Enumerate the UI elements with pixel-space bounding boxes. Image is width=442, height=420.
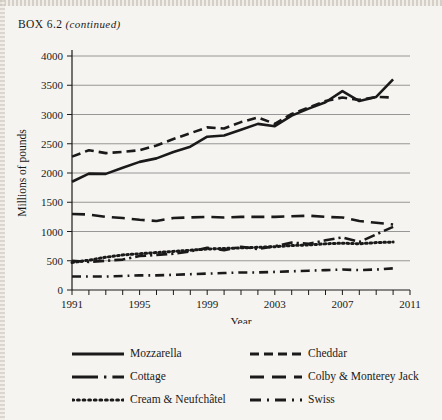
legend-item-swiss[interactable]: Swiss (250, 394, 335, 406)
legend-swatch-long-dash (250, 373, 302, 381)
series-line-colby-monterey-jack (72, 214, 393, 225)
legend-item-cottage[interactable]: Cottage (72, 371, 166, 383)
series-line-cheddar (72, 97, 393, 157)
legend-item-label: Cream & Neufchâtel (130, 394, 226, 406)
box-caption: BOX 6.2 (continued) (18, 18, 121, 30)
y-tick-label: 1500 (41, 196, 64, 208)
y-tick-label: 3000 (41, 109, 64, 121)
x-tick-label: 1995 (129, 298, 152, 310)
legend-item-label: Cottage (130, 371, 166, 383)
line-chart: 0500100015002000250030003500400019911995… (0, 34, 442, 324)
x-tick-label: 1999 (196, 298, 219, 310)
x-tick-label: 1991 (61, 298, 83, 310)
legend-item-cream-neufch-tel[interactable]: Cream & Neufchâtel (72, 394, 226, 406)
legend-item-label: Swiss (308, 394, 335, 406)
page-root: BOX 6.2 (continued) 05001000150020002500… (0, 0, 442, 420)
y-tick-label: 2500 (41, 138, 64, 150)
y-tick-label: 2000 (41, 167, 64, 179)
x-tick-label: 2007 (331, 298, 354, 310)
series-line-mozzarella (72, 79, 393, 181)
legend-item-label: Cheddar (308, 348, 347, 360)
y-axis-label: Millions of pounds (16, 129, 29, 217)
legend-swatch-dotted (72, 396, 124, 404)
scan-edge-top (0, 0, 442, 6)
legend-swatch-dash-dot-short (250, 396, 302, 404)
chart-legend: MozzarellaCheddarCottageColby & Monterey… (0, 348, 442, 416)
x-axis-label: Year (230, 316, 251, 324)
legend-swatch-dash-dot (72, 373, 124, 381)
y-tick-label: 4000 (41, 50, 64, 62)
x-tick-label: 2003 (264, 298, 287, 310)
y-tick-label: 0 (58, 284, 64, 296)
series-line-swiss (72, 268, 393, 276)
legend-item-label: Colby & Monterey Jack (308, 371, 419, 383)
x-tick-label: 2011 (399, 298, 421, 310)
box-number: BOX 6.2 (18, 18, 62, 30)
y-tick-label: 500 (47, 255, 64, 267)
legend-item-label: Mozzarella (130, 348, 182, 360)
chart-figure: 0500100015002000250030003500400019911995… (0, 34, 442, 324)
y-tick-label: 1000 (41, 226, 64, 238)
legend-swatch-solid (72, 350, 124, 358)
box-continued: (continued) (66, 18, 121, 30)
legend-item-cheddar[interactable]: Cheddar (250, 348, 347, 360)
legend-swatch-dashed (250, 350, 302, 358)
legend-item-mozzarella[interactable]: Mozzarella (72, 348, 182, 360)
y-tick-label: 3500 (41, 79, 64, 91)
legend-item-colby-monterey-jack[interactable]: Colby & Monterey Jack (250, 371, 419, 383)
